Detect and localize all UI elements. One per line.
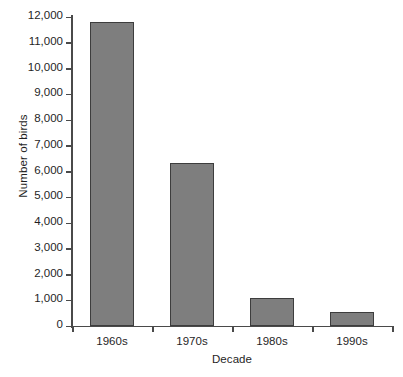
y-tick-mark — [66, 300, 72, 302]
x-tick-label-1960s: 1960s — [72, 335, 152, 347]
y-tick-label: 2,000 — [34, 267, 63, 279]
y-tick-mark — [66, 42, 72, 44]
y-tick-label: 0 — [57, 318, 63, 330]
y-axis-title: Number of birds — [17, 86, 29, 226]
y-tick-label: 6,000 — [34, 164, 63, 176]
y-tick-mark — [66, 120, 72, 122]
bar-1990s — [330, 312, 374, 326]
y-tick-mark — [66, 68, 72, 70]
bar-1970s — [170, 163, 214, 327]
bar-1980s — [250, 298, 294, 326]
y-tick-label: 5,000 — [34, 189, 63, 201]
x-tick-mark — [152, 326, 154, 332]
x-tick-label-1980s: 1980s — [232, 335, 312, 347]
y-tick-label: 9,000 — [34, 86, 63, 98]
y-tick-mark — [66, 171, 72, 173]
x-axis-title: Decade — [72, 353, 392, 365]
x-tick-mark — [312, 326, 314, 332]
y-tick-mark — [66, 223, 72, 225]
y-tick-label: 3,000 — [34, 241, 63, 253]
plot-area: 01,0002,0003,0004,0005,0006,0007,0008,00… — [72, 17, 392, 326]
y-tick-label: 10,000 — [28, 61, 63, 73]
y-tick-mark — [66, 274, 72, 276]
x-tick-mark — [232, 326, 234, 332]
y-tick-mark — [66, 197, 72, 199]
x-tick-mark — [392, 326, 394, 332]
x-tick-mark — [72, 326, 74, 332]
y-tick-mark — [66, 94, 72, 96]
y-tick-mark — [66, 17, 72, 19]
y-tick-label: 1,000 — [34, 292, 63, 304]
y-tick-label: 11,000 — [29, 35, 63, 47]
x-tick-label-1970s: 1970s — [152, 335, 232, 347]
y-tick-mark — [66, 248, 72, 250]
bar-1960s — [90, 22, 134, 326]
bar-chart: Number of birds 01,0002,0003,0004,0005,0… — [0, 0, 403, 377]
y-tick-label: 8,000 — [34, 112, 63, 124]
y-tick-mark — [66, 145, 72, 147]
y-tick-label: 7,000 — [34, 138, 63, 150]
y-tick-label: 12,000 — [28, 9, 63, 21]
y-tick-label: 4,000 — [34, 215, 63, 227]
x-tick-label-1990s: 1990s — [312, 335, 392, 347]
